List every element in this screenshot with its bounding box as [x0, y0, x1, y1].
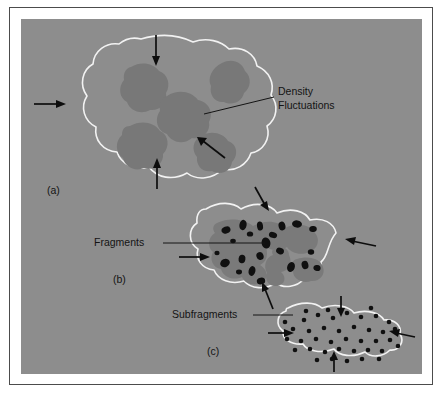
subfragment-dot	[369, 306, 374, 311]
density-fluctuations-label-line2: Fluctuations	[278, 99, 335, 111]
panel-tag-b: (b)	[113, 273, 126, 285]
subfragment-dot	[352, 349, 357, 354]
subfragment-dot	[308, 347, 313, 352]
collapse-arrow-b-left	[179, 253, 210, 261]
subfragment-dot	[344, 337, 349, 342]
fragment-ellipse	[214, 251, 219, 255]
subfragment-dot	[283, 320, 288, 325]
subfragment-dot	[293, 348, 298, 353]
subfragment-dot	[331, 316, 336, 321]
figure-root: Density Fluctuations (a)	[0, 0, 445, 401]
subfragment-dot	[315, 358, 320, 363]
subfragment-dot	[304, 309, 309, 314]
subfragment-dot	[359, 339, 364, 344]
subfragment-dot	[367, 328, 372, 333]
collapse-arrow-c-right	[389, 329, 415, 337]
fragments-label: Fragments	[94, 236, 144, 248]
subfragment-dot	[387, 320, 392, 325]
fragment-ellipse	[236, 270, 242, 275]
fragmentation-diagram: Density Fluctuations (a)	[21, 19, 422, 374]
subfragment-dot	[322, 326, 327, 331]
subfragment-dot	[329, 340, 334, 345]
subfragment-dot	[345, 359, 350, 364]
subfragment-dot	[377, 357, 382, 362]
subfragment-dot	[388, 338, 393, 343]
subfragment-dot	[374, 314, 379, 319]
subfragment-dot	[291, 327, 296, 332]
subfragment-dot	[323, 350, 328, 355]
subfragment-dot	[380, 349, 385, 354]
subfragment-dot	[302, 318, 307, 323]
subfragment-dot	[316, 313, 321, 318]
subfragment-dot	[299, 339, 304, 344]
density-blob-upper-right	[210, 61, 250, 104]
figure-gray-plate: Density Fluctuations (a)	[21, 19, 422, 374]
density-fluctuations-label-line1: Density	[278, 85, 314, 97]
panel-tag-a: (a)	[47, 184, 60, 196]
subfragment-dot	[285, 337, 290, 342]
subfragment-dot	[366, 348, 371, 353]
subfragment-dot	[326, 308, 331, 313]
subfragment-dot	[360, 357, 365, 362]
fragment-ellipse	[308, 249, 314, 255]
subfragments-label: Subfragments	[172, 308, 237, 320]
panel-a-group: Density Fluctuations (a)	[34, 35, 335, 196]
panel-b-group: Fragments (b)	[94, 187, 376, 309]
panel-c-group: Subfragments (c)	[172, 296, 415, 372]
collapse-arrow-a-left	[34, 100, 66, 108]
subfragment-dot	[352, 325, 357, 330]
collapse-arrow-b-top	[255, 187, 269, 211]
collapse-arrow-a-top	[152, 35, 160, 66]
collapse-arrow-b-right	[345, 237, 376, 246]
subfragment-dot	[345, 311, 350, 316]
collapse-arrow-c-bottom	[330, 351, 338, 372]
subfragment-dot	[337, 347, 342, 352]
subfragment-dot	[381, 330, 386, 335]
panel-tag-c: (c)	[207, 345, 219, 357]
density-blob-center	[157, 92, 211, 142]
subfragment-dot	[359, 315, 364, 320]
fragment-ellipse	[247, 231, 253, 236]
subfragment-dot	[307, 329, 312, 334]
subfragment-dot	[337, 329, 342, 334]
subfragment-dot	[396, 344, 401, 349]
subfragment-dot	[314, 337, 319, 342]
subfragment-dot	[374, 339, 379, 344]
